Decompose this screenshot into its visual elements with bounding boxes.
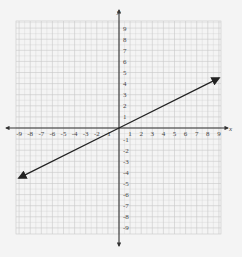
x-tick-label: -2 bbox=[94, 130, 100, 138]
y-tick-label: 6 bbox=[123, 58, 127, 66]
y-tick-label: -7 bbox=[123, 202, 129, 210]
y-axis-label: y bbox=[116, 8, 121, 16]
x-tick-label: -6 bbox=[49, 130, 55, 138]
y-tick-label: 1 bbox=[123, 113, 127, 121]
y-tick-label: 3 bbox=[123, 91, 127, 99]
y-tick-label: 7 bbox=[123, 47, 127, 55]
x-tick-label: 4 bbox=[162, 130, 166, 138]
axes bbox=[6, 10, 228, 246]
y-tick-label: 2 bbox=[123, 102, 127, 110]
y-tick-label: -6 bbox=[123, 191, 129, 199]
x-axis-label: x bbox=[228, 125, 233, 133]
y-tick-label: 4 bbox=[123, 80, 127, 88]
y-tick-label: -8 bbox=[123, 213, 129, 221]
x-tick-label: 9 bbox=[217, 130, 221, 138]
y-tick-label: -9 bbox=[123, 224, 129, 232]
x-tick-label: 8 bbox=[206, 130, 210, 138]
y-tick-label: -3 bbox=[123, 158, 129, 166]
x-tick-label: 3 bbox=[151, 130, 155, 138]
x-tick-label: -7 bbox=[38, 130, 44, 138]
x-tick-label: -8 bbox=[27, 130, 33, 138]
y-tick-label: -4 bbox=[123, 169, 129, 177]
x-tick-label: 1 bbox=[128, 130, 132, 138]
x-tick-label: -3 bbox=[83, 130, 89, 138]
y-tick-label: 5 bbox=[123, 69, 127, 77]
x-tick-label: 5 bbox=[173, 130, 177, 138]
y-tick-label: 8 bbox=[123, 36, 127, 44]
y-tick-label: -5 bbox=[123, 180, 129, 188]
x-tick-label: 7 bbox=[195, 130, 199, 138]
coordinate-plane: -9-8-7-6-5-4-3-2-1123456789987654321-1-2… bbox=[0, 0, 242, 257]
x-tick-label: -9 bbox=[16, 130, 22, 138]
y-tick-label: -2 bbox=[123, 147, 129, 155]
y-tick-label: 9 bbox=[123, 25, 127, 33]
x-tick-label: -4 bbox=[72, 130, 78, 138]
x-tick-label: -5 bbox=[61, 130, 67, 138]
y-tick-label: -1 bbox=[123, 136, 129, 144]
x-tick-label: 2 bbox=[139, 130, 143, 138]
x-tick-label: 6 bbox=[184, 130, 188, 138]
